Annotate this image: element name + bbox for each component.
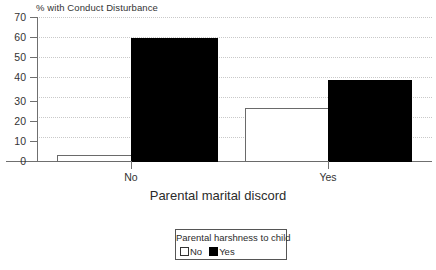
legend-entry-yes: Yes: [209, 246, 235, 257]
y-tick-70: [30, 17, 37, 18]
y-tick-10: [30, 141, 37, 142]
x-tick-yes: [328, 161, 329, 169]
bar-discord-no-harshness-no: [57, 155, 132, 162]
bar-discord-yes-harshness-yes: [328, 80, 412, 162]
y-axis-line: [37, 17, 38, 162]
x-axis-label: Parental marital discord: [0, 188, 436, 203]
gridline-50: [37, 57, 432, 58]
legend-entry-no: No: [180, 246, 202, 257]
y-tick-20: [30, 121, 37, 122]
y-tick-30: [30, 101, 37, 102]
y-tick-60: [30, 37, 37, 38]
y-tick-label-40: 40: [3, 71, 26, 83]
y-tick-label-70: 70: [3, 11, 26, 23]
gridline-40: [37, 77, 432, 78]
y-tick-label-20: 20: [3, 115, 26, 127]
bar-discord-no-harshness-yes: [131, 38, 218, 162]
gridline-70: [37, 17, 432, 18]
legend-title: Parental harshness to child: [176, 232, 288, 243]
legend-entries: No Yes: [180, 246, 235, 257]
legend-swatch-black-square: [209, 247, 218, 256]
y-tick-40: [30, 77, 37, 78]
legend-swatch-white-square: [180, 247, 189, 256]
y-tick-50: [30, 57, 37, 58]
y-tick-label-10: 10: [3, 135, 26, 147]
chart-legend: Parental harshness to child No Yes: [175, 229, 287, 260]
x-tick-label-no: No: [124, 171, 137, 183]
gridline-60: [37, 37, 432, 38]
y-tick-0: [30, 161, 37, 162]
y-tick-label-50: 50: [3, 51, 26, 63]
legend-label-no: No: [190, 246, 202, 257]
bar-discord-yes-harshness-no: [245, 108, 329, 162]
y-tick-label-30: 30: [3, 95, 26, 107]
x-tick-label-yes: Yes: [319, 171, 336, 183]
x-tick-no: [131, 161, 132, 169]
y-tick-label-60: 60: [3, 31, 26, 43]
chart-title: % with Conduct Disturbance: [36, 2, 158, 13]
chart-figure: % with Conduct Disturbance 70 60 50 40 3…: [0, 0, 436, 270]
legend-label-yes: Yes: [219, 246, 235, 257]
y-tick-label-0: 0: [3, 155, 26, 167]
